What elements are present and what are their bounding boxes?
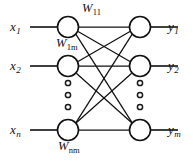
- weight-label-wnm-sub: nm: [69, 145, 80, 155]
- output-label-y2-base: y: [168, 58, 174, 73]
- ellipsis-dot-output-2: [137, 92, 142, 97]
- node-x2: [58, 56, 79, 77]
- output-ellipsis-dots: [137, 80, 142, 109]
- input-label-x2: x2: [10, 59, 21, 75]
- connection-edges: [76, 27, 132, 130]
- output-label-y1-sub: 1: [174, 26, 179, 36]
- node-y2: [130, 56, 151, 77]
- output-label-y2: y2: [168, 59, 179, 75]
- weight-label-w1m: W1m: [56, 37, 78, 51]
- weight-label-w11-base: W: [82, 1, 92, 15]
- output-label-ym-sub: m: [174, 129, 181, 139]
- node-y1: [130, 17, 151, 38]
- weight-label-w11: W11: [82, 2, 101, 16]
- output-label-ym: ym: [168, 123, 181, 139]
- ellipsis-dot-input-3: [65, 104, 70, 109]
- output-lead-lines: [151, 27, 179, 130]
- input-label-x1: x1: [10, 20, 21, 36]
- ellipsis-dot-output-3: [137, 104, 142, 109]
- input-lead-lines: [30, 27, 58, 130]
- ellipsis-dot-input-1: [65, 80, 70, 85]
- weight-label-w1m-base: W: [56, 36, 66, 50]
- neural-network-diagram: x1 x2 xn y1 y2 ym W11 W1m Wnm: [0, 0, 193, 163]
- input-label-x1-sub: 1: [16, 26, 21, 36]
- weight-label-wnm-base: W: [58, 139, 68, 153]
- output-label-y1-base: y: [168, 19, 174, 34]
- input-label-x2-base: x: [10, 58, 16, 73]
- input-ellipsis-dots: [65, 80, 70, 109]
- input-label-xn-base: x: [10, 122, 16, 137]
- weight-label-wnm: Wnm: [58, 140, 80, 154]
- input-label-xn: xn: [10, 123, 21, 139]
- input-label-x1-base: x: [10, 19, 16, 34]
- output-nodes: [130, 17, 151, 141]
- node-xn: [58, 120, 79, 141]
- node-ym: [130, 120, 151, 141]
- output-label-y1: y1: [168, 20, 179, 36]
- output-label-ym-base: y: [168, 122, 174, 137]
- ellipsis-dot-output-1: [137, 80, 142, 85]
- input-label-xn-sub: n: [16, 129, 21, 139]
- weight-label-w11-sub: 11: [93, 7, 101, 17]
- network-graphic: [0, 0, 193, 163]
- output-label-y2-sub: 2: [174, 65, 179, 75]
- input-label-x2-sub: 2: [16, 65, 21, 75]
- node-x1: [58, 17, 79, 38]
- weight-label-w1m-sub: 1m: [67, 42, 78, 52]
- ellipsis-dot-input-2: [65, 92, 70, 97]
